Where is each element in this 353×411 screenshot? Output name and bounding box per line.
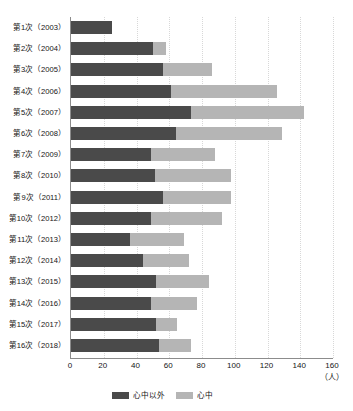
x-tick-label: 0 xyxy=(68,360,72,371)
bar-rows xyxy=(71,17,333,358)
bar-row xyxy=(71,318,333,331)
legend-swatch-icon xyxy=(176,392,193,399)
bar-row xyxy=(71,106,333,119)
bar-segment-light xyxy=(171,85,277,98)
gridline xyxy=(333,17,334,358)
category-axis-labels: 第1次（2003）第2次（2004）第3次（2005）第4次（2006）第5次（… xyxy=(0,17,66,358)
x-tick-label: 20 xyxy=(98,360,107,371)
category-label: 第1次（2003） xyxy=(0,21,66,34)
bar-row xyxy=(71,127,333,140)
bar-row xyxy=(71,212,333,225)
bar-segment-light xyxy=(191,106,304,119)
bar-row xyxy=(71,339,333,352)
category-label: 第16次（2018） xyxy=(0,339,66,352)
x-tick-label: 40 xyxy=(131,360,140,371)
bar-row xyxy=(71,254,333,267)
category-label: 第2次（2004） xyxy=(0,42,66,55)
legend-label: 心中 xyxy=(197,391,213,400)
bar-segment-light xyxy=(156,318,177,331)
x-axis-unit-label: （人） xyxy=(320,372,344,383)
bar-segment-dark xyxy=(71,169,155,182)
bar-segment-dark xyxy=(71,254,143,267)
bar-segment-dark xyxy=(71,318,156,331)
bar-segment-dark xyxy=(71,21,112,34)
x-tick-label: 80 xyxy=(197,360,206,371)
bar-segment-dark xyxy=(71,233,130,246)
x-tick-label: 140 xyxy=(293,360,306,371)
x-tick-label: 160 xyxy=(325,360,338,371)
bar-segment-light xyxy=(151,297,197,310)
bar-row xyxy=(71,275,333,288)
category-label: 第8次（2010） xyxy=(0,169,66,182)
bar-segment-dark xyxy=(71,106,191,119)
bar-segment-light xyxy=(151,148,215,161)
bar-segment-dark xyxy=(71,148,151,161)
chart-legend: 心中以外心中 xyxy=(112,391,213,400)
bar-segment-light xyxy=(153,42,166,55)
bar-row xyxy=(71,21,333,34)
category-label: 第10次（2012） xyxy=(0,212,66,225)
bar-segment-light xyxy=(151,212,221,225)
category-label: 第5次（2007） xyxy=(0,106,66,119)
bar-segment-dark xyxy=(71,127,176,140)
bar-segment-dark xyxy=(71,297,151,310)
bar-segment-light xyxy=(156,275,208,288)
category-label: 第15次（2017） xyxy=(0,318,66,331)
legend-label: 心中以外 xyxy=(133,391,165,400)
bar-segment-light xyxy=(163,63,212,76)
legend-item[interactable]: 心中 xyxy=(176,391,213,400)
category-label: 第4次（2006） xyxy=(0,85,66,98)
legend-swatch-icon xyxy=(112,392,129,399)
category-label: 第11次（2013） xyxy=(0,233,66,246)
bar-segment-dark xyxy=(71,85,171,98)
x-tick-label: 120 xyxy=(260,360,273,371)
bar-segment-dark xyxy=(71,212,151,225)
category-label: 第7次（2009） xyxy=(0,148,66,161)
category-label: 第3次（2005） xyxy=(0,63,66,76)
category-label: 第13次（2015） xyxy=(0,275,66,288)
category-label: 第14次（2016） xyxy=(0,297,66,310)
bar-segment-dark xyxy=(71,339,159,352)
bar-segment-light xyxy=(163,191,232,204)
category-label: 第12次（2014） xyxy=(0,254,66,267)
bar-segment-light xyxy=(130,233,184,246)
bar-segment-dark xyxy=(71,42,153,55)
x-tick-label: 60 xyxy=(164,360,173,371)
legend-item[interactable]: 心中以外 xyxy=(112,391,165,400)
plot-area xyxy=(70,17,333,359)
bar-row xyxy=(71,148,333,161)
bar-row xyxy=(71,191,333,204)
bar-row xyxy=(71,169,333,182)
bar-segment-dark xyxy=(71,191,163,204)
bar-segment-light xyxy=(159,339,190,352)
bar-row xyxy=(71,63,333,76)
bar-segment-dark xyxy=(71,63,163,76)
bar-segment-light xyxy=(155,169,232,182)
bar-row xyxy=(71,42,333,55)
stacked-bar-chart: 第1次（2003）第2次（2004）第3次（2005）第4次（2006）第5次（… xyxy=(0,0,353,411)
bar-segment-light xyxy=(176,127,282,140)
x-axis-ticks: 020406080100120140160 xyxy=(0,360,353,372)
x-tick-label: 100 xyxy=(227,360,240,371)
bar-segment-light xyxy=(143,254,189,267)
category-label: 第9次（2011） xyxy=(0,191,66,204)
bar-row xyxy=(71,85,333,98)
bar-segment-dark xyxy=(71,275,156,288)
bar-row xyxy=(71,297,333,310)
category-label: 第6次（2008） xyxy=(0,127,66,140)
bar-row xyxy=(71,233,333,246)
